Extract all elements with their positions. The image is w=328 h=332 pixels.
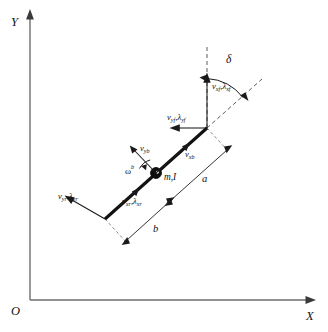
svg-text:vyb: vyb <box>140 143 150 154</box>
label-cg-lateral: vyb <box>140 143 150 154</box>
svg-text:vxf,λxf: vxf,λxf <box>212 81 232 92</box>
vector-front-lateral <box>170 124 208 131</box>
y-axis-label: Y <box>11 15 20 29</box>
figure-root: Y O X <box>0 0 328 332</box>
label-front-longitudinal: vxf,λxf <box>212 81 232 92</box>
steer-angle-label: δ <box>226 53 232 65</box>
delta-arc-head-left <box>200 75 208 83</box>
svg-text:vxr,λxr: vxr,λxr <box>122 196 143 207</box>
label-angular-velocity: ωb <box>125 164 134 176</box>
label-cg-longitudinal: vxb <box>185 149 195 160</box>
vector-front-lateral-head <box>170 124 180 131</box>
mass-inertia-label: m,I <box>164 172 177 182</box>
label-front-lateral: vyf,λyf <box>167 112 187 123</box>
label-rear-lateral: vyr,λyr <box>58 191 79 202</box>
label-v-yb-sub: yb <box>143 148 150 154</box>
svg-text:vxb: vxb <box>185 149 195 160</box>
origin-label: O <box>11 304 20 318</box>
vector-cg-longitudinal-shaft <box>156 147 185 173</box>
label-lambda-xr-sub: xr <box>136 201 143 207</box>
svg-text:vyf,λyf: vyf,λyf <box>167 112 187 123</box>
label-v-xb-sub: xb <box>188 154 195 160</box>
x-axis-arrowhead <box>306 296 317 304</box>
label-omega-sub: b <box>131 164 134 170</box>
dimension-a-line <box>170 150 227 201</box>
svg-text:vyr,λyr: vyr,λyr <box>58 191 79 202</box>
dimension-b-label: b <box>153 223 158 234</box>
label-lambda-xf-sub: xf <box>225 86 232 92</box>
x-axis-label: X <box>305 309 315 323</box>
construction-lines <box>105 44 262 243</box>
svg-text:ωb: ωb <box>125 164 134 176</box>
label-rear-longitudinal: vxr,λxr <box>122 196 143 207</box>
rear-offset-dashed <box>105 219 127 243</box>
delta-arc-head-right <box>240 92 248 101</box>
label-lambda-yf-sub: yf <box>180 117 187 123</box>
axis-group <box>26 9 316 304</box>
vector-rear-lateral-shaft <box>72 200 105 219</box>
dimension-a-label: a <box>202 173 207 184</box>
label-lambda-yr-sub: yr <box>72 196 79 202</box>
y-axis-arrowhead <box>26 9 34 20</box>
dimension-b-line <box>127 202 169 240</box>
kinematics-diagram: Y O X <box>0 0 328 332</box>
